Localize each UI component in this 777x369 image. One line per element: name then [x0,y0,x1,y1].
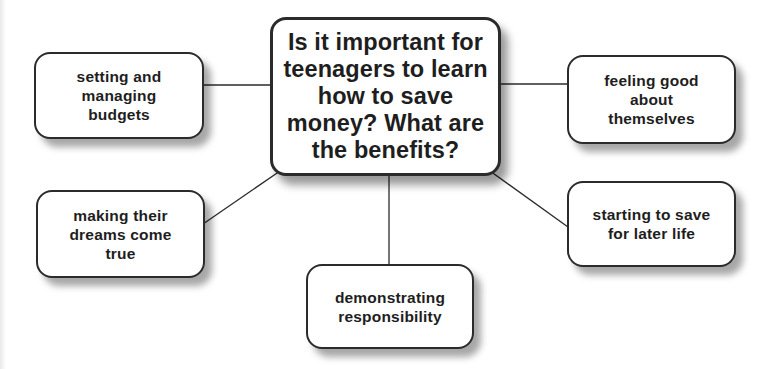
branch-text: setting and managing budgets [77,67,162,124]
branch-node-starting-to-save-for-later-life: starting to save for later life [567,181,736,267]
branch-node-demonstrating-responsibility: demonstrating responsibility [306,264,474,349]
connector-bottom-right [490,171,568,227]
branch-node-setting-and-managing-budgets: setting and managing budgets [34,52,204,139]
central-question-node: Is it important for teenagers to learn h… [270,17,501,176]
mind-map-canvas: Is it important for teenagers to learn h… [0,0,777,369]
branch-text: demonstrating responsibility [335,288,445,326]
branch-text: feeling good about themselves [604,71,699,128]
branch-text: making their dreams come true [69,206,171,263]
branch-node-feeling-good-about-themselves: feeling good about themselves [567,55,736,144]
branch-text: starting to save for later life [593,205,711,243]
branch-node-making-their-dreams-come-true: making their dreams come true [36,190,205,278]
connector-bottom-left [203,171,280,224]
central-question-text: Is it important for teenagers to learn h… [283,29,487,164]
